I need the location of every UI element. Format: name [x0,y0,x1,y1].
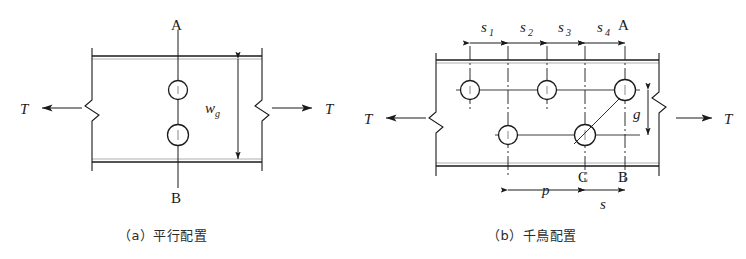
panel-a-hole-lower [168,125,189,146]
label-wg-symbol: w [205,100,215,116]
panel-a-label-a: A [171,17,182,33]
label-wg-subscript: g [215,108,220,119]
panel-b-label-s3-subscript: 3 [565,27,571,38]
panel-a-hole-upper [169,81,188,100]
panel-b-caption: （b）千鳥配置 [487,225,577,244]
figure-root: w g T T A B [0,0,746,259]
panel-b-label-s4-symbol: s [597,19,603,35]
panel-a-group: w g T T A B [20,17,335,206]
panel-b-right-break-line [652,53,666,176]
panel-b-label-s2-symbol: s [520,19,526,35]
panel-b-diagonal-failure-path [574,98,620,144]
engineering-diagram-svg: w g T T A B [0,0,746,259]
panel-b-hole-lower-2 [575,125,596,146]
panel-b-label-a: A [618,17,629,33]
panel-b-label-force-right: T [724,111,734,127]
panel-b-plate-edges [436,60,659,166]
panel-b-label-s2-subscript: 2 [528,27,533,38]
panel-b-left-break-line [429,53,443,176]
panel-b-label-s1-symbol: s [481,19,487,35]
panel-b-hole-upper-3 [615,80,636,101]
panel-a-right-break-line [255,48,269,171]
panel-b-label-s3-symbol: s [558,19,564,35]
panel-b-hole-upper-1 [461,81,480,100]
panel-b-hole-upper-2 [538,81,557,100]
panel-b-group: s 1 s 2 s 3 s 4 g p s [364,17,734,212]
panel-b-hole-centerlines [470,46,625,182]
panel-a-label-b: B [171,190,181,206]
panel-b-label-g: g [633,106,641,122]
panel-b-hole-lower-1 [499,126,518,145]
panel-b-label-s4-subscript: 4 [605,27,610,38]
panel-b-label-s1-subscript: 1 [489,27,494,38]
panel-a-label-force-right: T [325,101,335,117]
panel-b-label-c: C [578,169,588,185]
panel-a-label-force-left: T [20,101,30,117]
panel-b-label-p: p [541,182,550,198]
panel-a-left-break-line [85,48,99,171]
panel-b-label-force-left: T [364,111,374,127]
panel-b-label-b: B [618,169,628,185]
panel-b-label-s: s [600,196,606,212]
panel-a-caption: （a）平行配置 [118,225,207,244]
